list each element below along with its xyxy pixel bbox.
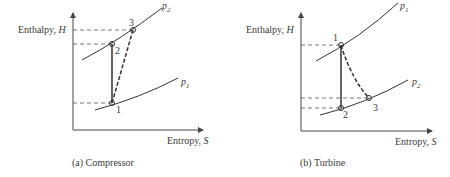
point-label-2: 2	[115, 45, 120, 56]
curve-label-p2: p2	[412, 76, 421, 90]
point-label-3: 3	[373, 102, 378, 113]
caption: (a) Compressor	[72, 157, 134, 168]
p1-isobar	[316, 3, 398, 61]
caption: (b) Turbine	[300, 157, 345, 168]
point-label-1: 1	[333, 32, 338, 43]
p2-isobar	[82, 8, 162, 60]
diagram-canvas	[0, 0, 450, 177]
curve-label-p2: p2	[162, 0, 171, 14]
point-label-3: 3	[129, 17, 134, 28]
x-axis-label: Entropy, S	[167, 135, 209, 146]
p1-isobar	[95, 78, 178, 110]
y-axis-label: Enthalpy, H	[246, 24, 294, 35]
p2-isobar	[320, 80, 408, 115]
x-axis-label: Entropy, S	[395, 136, 437, 147]
compressor-diagram	[73, 8, 203, 130]
y-axis-label: Enthalpy, H	[18, 24, 66, 35]
curve-label-p1: p1	[181, 76, 190, 90]
point-label-2: 2	[343, 109, 348, 120]
actual-process-line	[341, 45, 369, 98]
curve-label-p1: p1	[400, 0, 409, 14]
point-label-1: 1	[116, 104, 121, 115]
turbine-diagram	[301, 3, 432, 131]
